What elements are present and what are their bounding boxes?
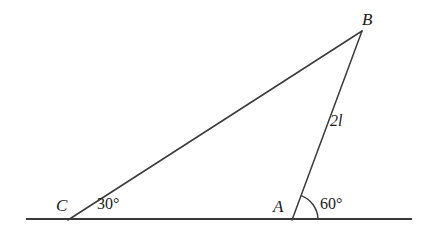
angle-arc-a [301, 196, 318, 219]
vertex-label-b: B [362, 11, 372, 28]
vertex-label-c: C [56, 197, 67, 214]
segment-ab [292, 31, 362, 220]
segment-cb [68, 31, 362, 220]
side-label-ab: 2l [330, 113, 342, 129]
geometry-diagram: B C A 30° 60° 2l [0, 0, 428, 240]
angle-label-a: 60° [320, 196, 342, 212]
angle-label-c: 30° [97, 196, 119, 212]
vertex-label-a: A [273, 198, 283, 215]
